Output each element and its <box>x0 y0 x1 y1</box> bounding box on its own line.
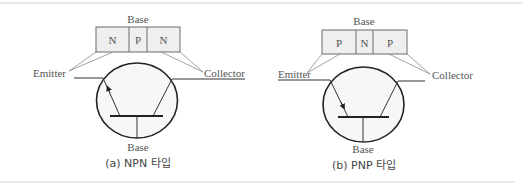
npn-base-top-label: Base <box>127 13 149 25</box>
pnp-diagram: Base P N P Emitter Collector Base (b) PN… <box>278 15 473 172</box>
npn-layer-emitter: N <box>109 34 117 46</box>
npn-collector-wire <box>161 52 203 72</box>
npn-layer-base: P <box>135 34 141 46</box>
pnp-layer-collector: P <box>387 37 393 49</box>
pnp-caption: (b) PNP 타입 <box>332 159 396 172</box>
npn-diagram: Base N P N Emitter Collector Base (a) NP… <box>33 13 245 170</box>
npn-emitter-label: Emitter <box>33 67 66 79</box>
pnp-emitter-label: Emitter <box>278 68 311 80</box>
npn-collector-label: Collector <box>204 67 245 79</box>
pnp-collector-wire <box>407 54 430 74</box>
pnp-layer-emitter: P <box>336 37 342 49</box>
pnp-base-top-label: Base <box>353 15 375 27</box>
npn-collector-wire <box>180 52 203 72</box>
pnp-base-bottom-label: Base <box>352 143 374 155</box>
npn-emitter-wire <box>69 52 113 71</box>
pnp-layer-base: N <box>361 37 369 49</box>
pnp-emitter-wire <box>307 54 340 73</box>
npn-caption: (a) NPN 타입 <box>105 157 170 170</box>
pnp-collector-wire <box>389 54 430 74</box>
npn-layer-stack: N P N <box>96 27 180 52</box>
npn-base-bottom-label: Base <box>127 141 149 153</box>
pnp-collector-label: Collector <box>432 69 473 81</box>
pnp-layer-stack: P N P <box>322 30 407 54</box>
npn-layer-collector: N <box>160 34 168 46</box>
transistor-figure: Base N P N Emitter Collector Base (a) NP… <box>0 0 523 187</box>
